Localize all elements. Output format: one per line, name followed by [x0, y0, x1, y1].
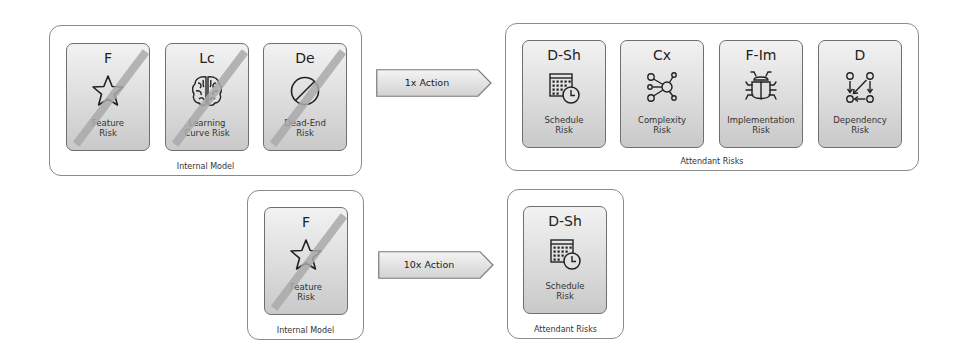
group-label: Internal Model: [248, 326, 363, 335]
calendar-clock-icon: [545, 234, 585, 274]
risk-code: D-Sh: [524, 213, 606, 229]
network-icon: [642, 68, 682, 108]
action-label: 10x Action: [378, 251, 480, 279]
risk-card-dead-end: De Dead-End Risk: [263, 43, 347, 151]
risk-card-complexity: Cx Complexity Risk: [620, 40, 704, 148]
group-label: Internal Model: [50, 162, 361, 171]
risk-card-feature: F Feature Risk: [264, 207, 348, 315]
risk-card-schedule: D-Sh Schedule Risk: [523, 206, 607, 314]
risk-code: F-Im: [720, 47, 802, 63]
group-label: Attendant Risks: [508, 325, 623, 334]
risk-name: Schedule Risk: [524, 281, 606, 301]
risk-code: D-Sh: [523, 47, 605, 63]
risk-card-feature: F Feature Risk: [66, 43, 150, 151]
bug-icon: [741, 68, 781, 108]
risk-card-schedule: D-Sh Schedule Risk: [522, 40, 606, 148]
risk-name: Complexity Risk: [621, 115, 703, 135]
action-label: 1x Action: [376, 69, 478, 97]
risk-card-dependency: D Dependency Risk: [818, 40, 902, 148]
group-label: Attendant Risks: [506, 157, 918, 166]
risk-card-learning-curve: Lc Learning Curve Risk: [165, 43, 249, 151]
risk-name: Dependency Risk: [819, 115, 901, 135]
action-arrow-1x: 1x Action: [376, 69, 492, 97]
action-arrow-10x: 10x Action: [378, 251, 494, 279]
risk-name: Schedule Risk: [523, 115, 605, 135]
dependency-graph-icon: [840, 68, 880, 108]
risk-code: Cx: [621, 47, 703, 63]
calendar-clock-icon: [544, 68, 584, 108]
risk-name: Implementation Risk: [720, 115, 802, 135]
risk-code: D: [819, 47, 901, 63]
risk-card-implementation: F-Im Implementation Risk: [719, 40, 803, 148]
